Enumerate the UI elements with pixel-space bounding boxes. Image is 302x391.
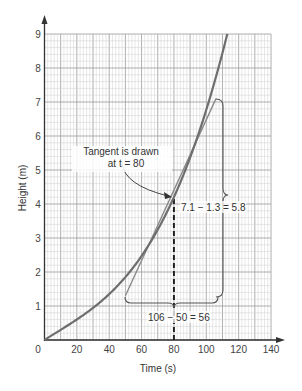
y-tick-label: 6 bbox=[35, 131, 41, 142]
y-tick-labels: 123456789 bbox=[35, 29, 41, 312]
y-tick-label: 9 bbox=[35, 29, 41, 40]
x-tick-label: 20 bbox=[71, 344, 83, 355]
rise-brace bbox=[216, 99, 228, 297]
y-tick-label: 3 bbox=[35, 233, 41, 244]
y-tick-label: 5 bbox=[35, 165, 41, 176]
x-tick-label: 0 bbox=[35, 344, 41, 355]
x-tick-label: 40 bbox=[104, 344, 116, 355]
tangent-chart: 020406080100120140 123456789 Time (s) He… bbox=[0, 0, 302, 391]
y-tick-label: 8 bbox=[35, 63, 41, 74]
x-tick-label: 80 bbox=[168, 344, 180, 355]
run-label: 106 − 50 = 56 bbox=[148, 312, 210, 323]
tangent-label-line1: Tangent is drawn bbox=[83, 146, 159, 157]
x-tick-label: 60 bbox=[136, 344, 148, 355]
y-axis-label: Height (m) bbox=[17, 165, 28, 212]
y-tick-label: 7 bbox=[35, 97, 41, 108]
y-tick-label: 1 bbox=[35, 301, 41, 312]
x-tick-labels: 020406080100120140 bbox=[35, 344, 280, 355]
x-axis-label: Time (s) bbox=[140, 363, 176, 374]
tangent-label-line2: at t = 80 bbox=[108, 158, 145, 169]
y-tick-label: 2 bbox=[35, 267, 41, 278]
grid bbox=[45, 34, 272, 340]
x-axis-arrow-icon bbox=[276, 337, 285, 343]
y-tick-label: 4 bbox=[35, 199, 41, 210]
x-tick-label: 140 bbox=[263, 344, 280, 355]
x-tick-label: 120 bbox=[230, 344, 247, 355]
rise-label: 7.1 − 1.3 = 5.8 bbox=[181, 202, 246, 213]
x-tick-label: 100 bbox=[198, 344, 215, 355]
y-axis-arrow-icon bbox=[42, 15, 48, 24]
